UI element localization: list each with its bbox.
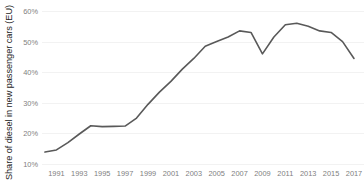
chart-figure: Share of diesel in new passenger cars (E… (0, 0, 364, 185)
y-axis-tick-label: 40% (0, 68, 42, 77)
plot-area: 10%20%30%40%50%60% 199119931995199719992… (42, 0, 364, 185)
y-axis-tick-label: 10% (0, 160, 42, 169)
y-axis-tick-label: 60% (0, 7, 42, 16)
y-axis-tick-label: 20% (0, 129, 42, 138)
series-line (45, 23, 354, 152)
y-axis-tick-label: 30% (0, 98, 42, 107)
y-axis-tick-label: 50% (0, 37, 42, 46)
series-layer (42, 0, 364, 185)
y-axis-title: Share of diesel in new passenger cars (E… (0, 0, 18, 185)
